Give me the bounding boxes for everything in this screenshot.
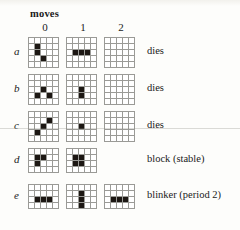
life-grid-e-move-0[interactable] [28,184,59,209]
dead-cell[interactable] [53,203,59,209]
row-outcome-note: blinker (period 2) [147,189,221,200]
row-outcome-note: dies [147,45,164,56]
row-label-e: e [14,189,19,201]
column-header-row: 0 1 2 [28,21,140,35]
life-grid-d-move-1[interactable] [66,148,97,173]
generation-row: cdies [0,111,240,143]
life-grid-a-move-2[interactable] [104,37,135,68]
row-label-d: d [14,153,20,165]
dead-cell[interactable] [129,62,135,68]
dead-cell[interactable] [129,203,135,209]
row-outcome-note: dies [147,119,164,130]
row-label-c: c [14,119,19,131]
life-grid-e-move-1[interactable] [66,184,97,209]
generation-row: adies [0,37,240,69]
dead-cell[interactable] [91,136,97,142]
generation-row: bdies [0,74,240,106]
dead-cell[interactable] [129,99,135,105]
life-grid-a-move-1[interactable] [66,37,97,68]
generation-row: eblinker (period 2) [0,184,240,210]
game-of-life-figure: moves 0 1 2 adiesbdiescdiesdblock (stabl… [0,0,240,230]
row-outcome-note: dies [147,82,164,93]
column-header-move-0: 0 [28,21,62,33]
life-grid-c-move-1[interactable] [66,111,97,142]
dead-cell[interactable] [129,136,135,142]
dead-cell[interactable] [91,167,97,173]
column-header-move-2: 2 [104,21,138,33]
life-grid-c-move-0[interactable] [28,111,59,142]
life-grid-b-move-0[interactable] [28,74,59,105]
row-label-b: b [14,82,20,94]
life-grid-b-move-1[interactable] [66,74,97,105]
life-grid-b-move-2[interactable] [104,74,135,105]
dead-cell[interactable] [53,136,59,142]
generation-row: dblock (stable) [0,148,240,174]
life-grid-d-move-0[interactable] [28,148,59,173]
dead-cell[interactable] [53,62,59,68]
life-grid-c-move-2[interactable] [104,111,135,142]
moves-header-label: moves [30,8,59,19]
dead-cell[interactable] [53,99,59,105]
dead-cell[interactable] [53,167,59,173]
row-outcome-note: block (stable) [147,153,204,164]
life-grid-e-move-2[interactable] [104,184,135,209]
dead-cell[interactable] [91,203,97,209]
dead-cell[interactable] [91,62,97,68]
row-label-a: a [14,45,20,57]
life-grid-a-move-0[interactable] [28,37,59,68]
column-header-move-1: 1 [66,21,100,33]
dead-cell[interactable] [91,99,97,105]
